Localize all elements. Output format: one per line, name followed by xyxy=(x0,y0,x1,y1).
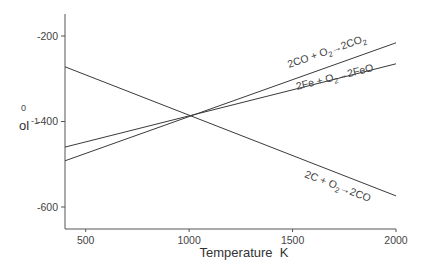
series-lines xyxy=(65,43,396,196)
series-label: 2Fe + O2→2FeO xyxy=(295,61,375,95)
y-axis-title: ol xyxy=(19,118,29,133)
y-axis-title-superscript: 0 xyxy=(21,103,26,113)
series-line xyxy=(65,43,396,161)
chart: -200-400-600 500100015002000 0 ol -1 Tem… xyxy=(0,0,426,272)
y-axis-title-exponent: -1 xyxy=(31,116,39,126)
x-tick-label: 500 xyxy=(77,234,95,246)
x-tick-label: 2000 xyxy=(384,234,408,246)
y-tick-label: -200 xyxy=(37,30,58,42)
y-tick-label: -600 xyxy=(37,201,58,213)
series-labels: 2C + O2→2CO2CO + O2→2CO22Fe + O2→2FeO xyxy=(286,32,375,207)
y-tick-label: -400 xyxy=(37,115,58,127)
x-axis-title: Temperature K xyxy=(200,245,289,260)
x-tick-label: 1000 xyxy=(177,234,201,246)
series-line xyxy=(65,67,396,196)
x-ticks: 500100015002000 xyxy=(77,229,408,246)
y-ticks: -200-400-600 xyxy=(37,30,65,213)
